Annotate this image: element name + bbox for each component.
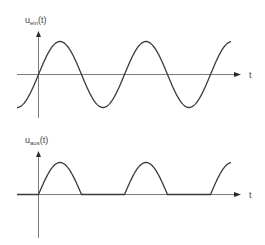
input-plot: uein(t) t xyxy=(17,15,252,118)
input-y-axis-arrow-icon xyxy=(36,31,41,37)
input-ylabel: uein(t) xyxy=(25,15,47,26)
output-x-axis-arrow-icon xyxy=(234,192,241,197)
input-xlabel: t xyxy=(249,70,252,80)
output-ylabel: uaus(t) xyxy=(25,135,48,146)
rectifier-diagram: uein(t) t uaus(t) t xyxy=(0,0,265,245)
output-plot: uaus(t) t xyxy=(17,135,252,238)
input-x-axis-arrow-icon xyxy=(234,72,241,77)
output-y-axis-arrow-icon xyxy=(36,151,41,157)
output-xlabel: t xyxy=(249,190,252,200)
output-rectified-wave xyxy=(17,163,231,195)
